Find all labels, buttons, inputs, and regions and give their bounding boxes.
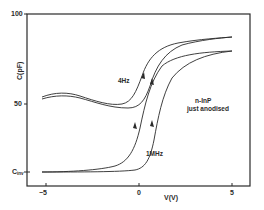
annotation-sample: n-InP bbox=[195, 98, 211, 105]
y-tick-label-cinv: Cinv bbox=[12, 168, 24, 177]
cinv-sub: inv bbox=[17, 171, 24, 176]
x-tick-label-neg5: −5 bbox=[39, 189, 47, 196]
annotation-condition: just anodised bbox=[187, 106, 229, 113]
x-tick-label-5: 5 bbox=[230, 189, 234, 196]
annotation-1mhz: 1MHz bbox=[146, 151, 163, 158]
arrow-1mhz-up bbox=[133, 122, 137, 129]
plot-frame bbox=[27, 14, 250, 186]
y-axis-title: C(pF) bbox=[16, 62, 23, 80]
x-tick-label-0: 0 bbox=[137, 189, 141, 196]
y-tick-label-50: 50 bbox=[14, 100, 22, 107]
x-axis-title: V(V) bbox=[164, 194, 178, 201]
curve-4hz-forward bbox=[42, 37, 232, 104]
arrow-1mhz-up-2 bbox=[150, 120, 154, 127]
y-tick-label-100: 100 bbox=[11, 10, 23, 17]
annotation-4hz: 4Hz bbox=[118, 78, 130, 85]
